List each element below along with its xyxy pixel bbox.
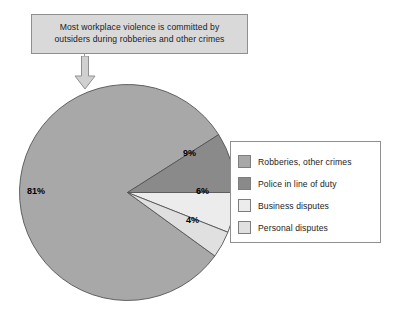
legend-item-police: Police in line of duty [238, 173, 380, 194]
legend-swatch-business [238, 199, 251, 212]
pie-label-robberies: 81% [27, 186, 45, 196]
legend-swatch-personal [238, 221, 251, 234]
pie-label-personal: 4% [186, 215, 199, 225]
legend-item-personal: Personal disputes [238, 217, 380, 238]
pie-label-police: 9% [183, 148, 196, 158]
legend-label-robberies: Robberies, other crimes [258, 157, 352, 167]
callout-box: Most workplace violence is committed by … [31, 14, 248, 54]
pie-label-business: 6% [196, 186, 209, 196]
callout-line-2: outsiders during robberies and other cri… [54, 34, 224, 46]
legend-swatch-robberies [238, 155, 251, 168]
chart-figure: Most workplace violence is committed by … [0, 0, 409, 311]
legend-label-personal: Personal disputes [258, 223, 328, 233]
legend-item-business: Business disputes [238, 195, 380, 216]
legend-item-robberies: Robberies, other crimes [238, 151, 380, 172]
legend-label-police: Police in line of duty [258, 179, 337, 189]
legend-swatch-police [238, 177, 251, 190]
legend-label-business: Business disputes [258, 201, 329, 211]
callout-line-1: Most workplace violence is committed by [60, 22, 220, 34]
legend: Robberies, other crimes Police in line o… [230, 141, 381, 243]
